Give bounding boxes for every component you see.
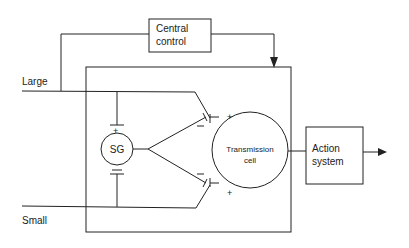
lower-plus-sign: +: [227, 188, 232, 198]
sg-node: SG: [101, 133, 133, 165]
large-fiber-label: Large: [22, 76, 48, 87]
central-control-label-1: Central: [156, 23, 188, 34]
sg-top-sign: +: [113, 126, 118, 136]
lower-inhibit-terminal: [203, 179, 207, 187]
sg-label: SG: [110, 144, 125, 155]
action-system-node: Action system: [306, 127, 363, 184]
sg-fork-upper: [148, 117, 206, 149]
central-control-node: Central control: [149, 19, 211, 52]
central-control-label-2: control: [156, 36, 186, 47]
transmission-cell-label-2: cell: [244, 156, 256, 165]
small-fiber-line: [22, 185, 210, 208]
output-arrow-icon: [378, 148, 387, 156]
large-fiber-line: [22, 91, 210, 118]
transmission-cell-label-1: Transmission: [226, 145, 273, 154]
large-to-central-line: [61, 34, 149, 91]
transmission-cell-node: Transmission cell: [212, 112, 288, 188]
sg-fork-lower: [148, 149, 206, 183]
gate-control-diagram: Central control Large Small + SG + + Tra: [0, 0, 409, 248]
central-arrow-icon: [270, 57, 278, 68]
action-system-label-2: system: [312, 156, 344, 167]
central-to-gate-line: [211, 34, 274, 62]
small-fiber-label: Small: [22, 215, 47, 226]
upper-inhibit-terminal: [203, 113, 207, 121]
action-system-label-1: Action: [312, 143, 340, 154]
